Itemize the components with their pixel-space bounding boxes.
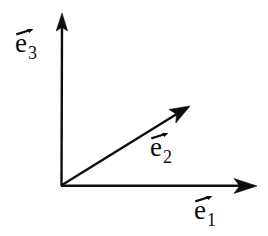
label-e1: e1: [194, 197, 215, 224]
label-e3: e3: [15, 30, 36, 57]
label-e3-subscript: 3: [28, 43, 37, 63]
axis-e2-arrowhead: [169, 106, 190, 123]
label-e3-base: e: [15, 28, 27, 58]
label-e1-base: e: [194, 195, 206, 225]
label-e2-subscript: 2: [163, 147, 172, 167]
basis-vector-diagram: e3 e2 e1: [0, 0, 268, 236]
label-e2-base: e: [150, 132, 162, 162]
label-e2-stack: e2: [150, 134, 171, 161]
label-e2: e2: [150, 134, 171, 161]
axis-e3-group: [56, 13, 67, 186]
axis-e1-group: [61, 179, 257, 194]
label-e1-stack: e1: [194, 197, 215, 224]
axis-e3-line: [62, 24, 63, 186]
label-e3-stack: e3: [15, 30, 36, 57]
vector-canvas: [0, 0, 268, 236]
label-e1-subscript: 1: [207, 210, 216, 230]
